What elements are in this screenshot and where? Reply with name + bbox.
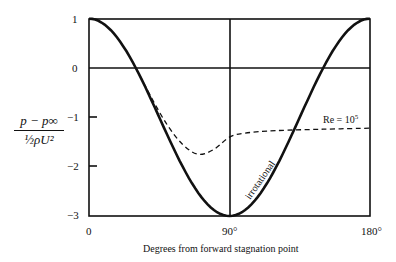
re-label: Re = 105: [323, 113, 359, 125]
y-tick-label-0: 0: [72, 62, 78, 74]
y-axis-label: p − p∞ ½ρU²: [14, 113, 64, 148]
y-tick-label-minus1: −1: [67, 111, 79, 123]
x-tick-label-180: 180°: [361, 225, 382, 237]
y-axis-label-denominator: ½ρU²: [14, 131, 64, 148]
x-tick-label-0: 0: [86, 225, 92, 237]
x-axis-label: Degrees from forward stagnation point: [143, 243, 299, 254]
x-tick-label-90: 90°: [222, 225, 237, 237]
y-tick-label-minus2: −2: [67, 160, 79, 172]
y-tick-label-1: 1: [72, 13, 78, 25]
y-axis-label-numerator: p − p∞: [14, 113, 64, 131]
y-tick-label-minus3: −3: [67, 209, 79, 221]
